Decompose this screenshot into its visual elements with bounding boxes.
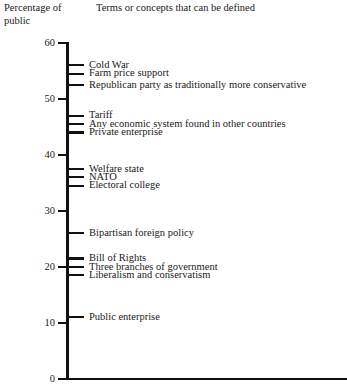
- column-caption: Terms or concepts that can be defined: [96, 2, 255, 15]
- data-point-tick: [68, 274, 84, 276]
- data-point-label: Public enterprise: [89, 312, 160, 323]
- y-axis-tick-20: [58, 266, 67, 268]
- y-axis-tick-label: 20: [28, 262, 55, 273]
- y-axis-tick-30: [58, 210, 67, 212]
- chart-container: Percentage of public Terms or concepts t…: [0, 0, 347, 389]
- y-axis-tick-label: 50: [28, 94, 55, 105]
- data-point-label: Electoral college: [89, 180, 160, 191]
- data-point-tick: [68, 266, 84, 268]
- data-point-tick: [68, 185, 84, 187]
- y-axis-tick-60: [58, 42, 67, 44]
- y-axis-tick-label: 60: [28, 38, 55, 49]
- data-point-tick: [68, 316, 84, 318]
- data-point-tick: [68, 168, 84, 170]
- data-point-tick: [68, 64, 84, 66]
- data-point-label: Republican party as traditionally more c…: [89, 80, 306, 91]
- data-point-tick: [68, 115, 84, 117]
- y-axis-tick-label: 0: [28, 374, 55, 385]
- data-point-label: Bipartisan foreign policy: [89, 228, 194, 239]
- data-point-label: Private enterprise: [89, 127, 163, 138]
- y-axis-tick-40: [58, 154, 67, 156]
- data-point-tick: [68, 131, 84, 133]
- data-point-label: Liberalism and conservatism: [89, 270, 210, 281]
- y-axis-tick-10: [58, 322, 67, 324]
- y-axis-tick-label: 40: [28, 150, 55, 161]
- y-axis-caption: Percentage of public: [4, 2, 96, 27]
- data-point-tick: [68, 176, 84, 178]
- y-axis-tick-label: 30: [28, 206, 55, 217]
- data-point-tick: [68, 73, 84, 75]
- y-axis-tick-label: 10: [28, 318, 55, 329]
- x-axis-line: [66, 378, 347, 381]
- y-axis-tick-0: [58, 378, 67, 380]
- data-point-tick: [68, 257, 84, 259]
- data-point-tick: [68, 232, 84, 234]
- y-axis-tick-50: [58, 98, 67, 100]
- data-point-tick: [68, 123, 84, 125]
- data-point-tick: [68, 84, 84, 86]
- data-point-label: Farm price support: [89, 68, 169, 79]
